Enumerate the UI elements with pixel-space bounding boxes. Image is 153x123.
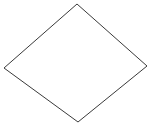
diagram-canvas: [0, 0, 153, 123]
diamond-diagram-svg: [0, 0, 153, 123]
